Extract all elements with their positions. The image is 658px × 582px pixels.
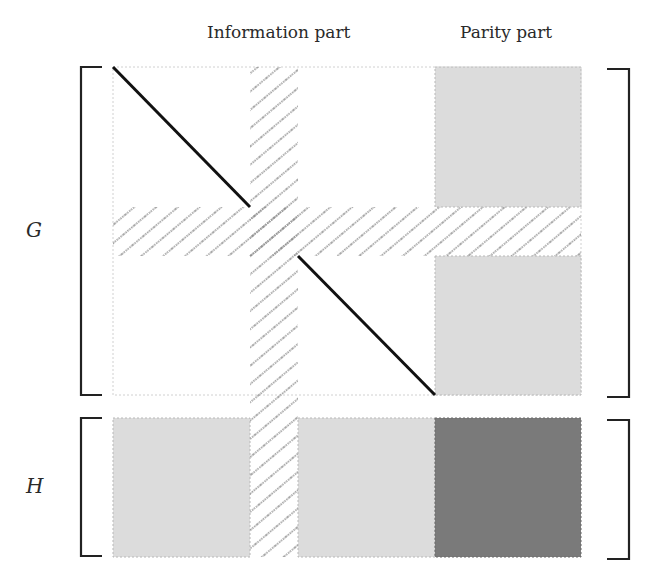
- h-parity-block: [435, 418, 581, 557]
- erased-row-hatch: [113, 207, 581, 256]
- g-parity-lower-block: [435, 256, 581, 395]
- matrix-diagram: [0, 0, 658, 582]
- erased-column-hatch: [250, 67, 298, 557]
- h-left-bracket: [81, 418, 102, 556]
- g-parity-upper-block: [435, 67, 581, 207]
- identity-diagonal-upper: [113, 67, 250, 207]
- g-left-bracket: [81, 67, 102, 395]
- h-info-left-block: [113, 418, 250, 557]
- g-right-bracket: [607, 69, 629, 397]
- identity-diagonal-lower: [298, 256, 435, 395]
- h-info-right-block: [298, 418, 435, 557]
- h-right-bracket: [607, 420, 629, 559]
